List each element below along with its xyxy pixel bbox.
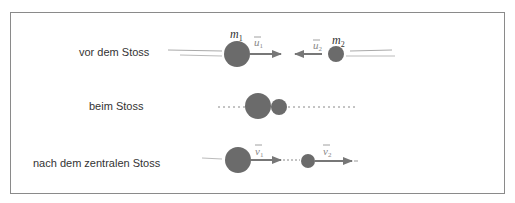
motion-streak (168, 50, 222, 51)
label-u1: u1 (254, 36, 264, 50)
label-m1: m1 (230, 27, 243, 43)
svg-text:v1: v1 (255, 145, 264, 159)
row-before (168, 41, 395, 67)
row-during (218, 93, 358, 119)
ball-m2-colliding (271, 99, 287, 115)
ball-m1 (224, 41, 250, 67)
motion-streak (350, 50, 392, 51)
label-v1: v1 (255, 145, 264, 159)
label-v2: v2 (323, 145, 332, 159)
label-u2: u2 (313, 39, 323, 53)
motion-streak (180, 55, 222, 56)
svg-text:u2: u2 (313, 39, 323, 53)
svg-text:v2: v2 (323, 145, 332, 159)
label-m2: m2 (332, 33, 345, 49)
collision-diagram: m1 m2 u1 u2 v1 v2 (0, 0, 515, 203)
ball-m1-after (225, 147, 251, 173)
motion-streak (202, 158, 222, 159)
ball-m1-colliding (245, 93, 271, 119)
ball-m2-after (301, 154, 315, 168)
svg-text:u1: u1 (254, 36, 264, 50)
row-after (202, 147, 358, 173)
